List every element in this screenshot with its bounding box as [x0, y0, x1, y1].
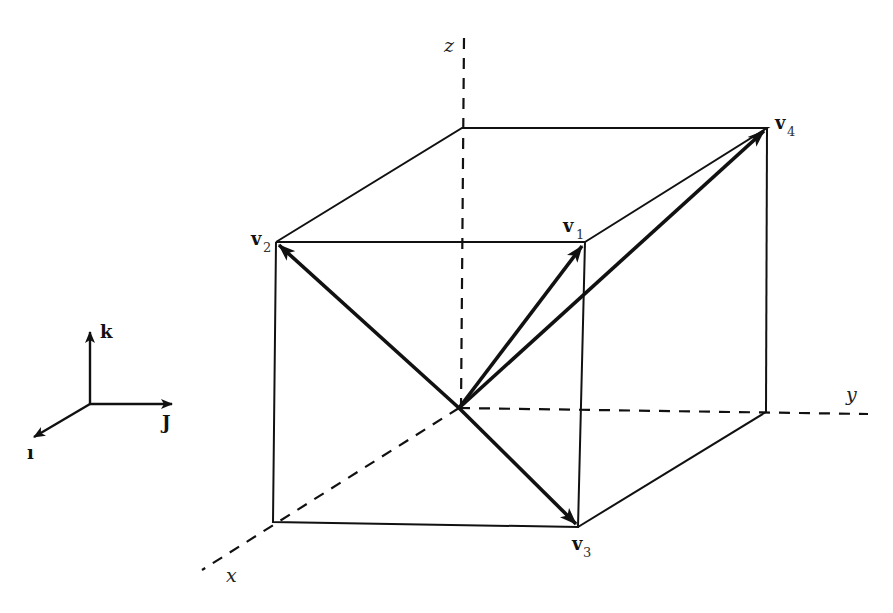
vectors — [279, 131, 764, 524]
vector-v1-arrow — [459, 246, 582, 408]
cube-bottom-right-edge — [578, 412, 766, 527]
y-axis — [459, 408, 868, 414]
vector-v2-arrow — [279, 245, 459, 408]
vector-v2-label: v 2 — [250, 228, 271, 255]
cube-top-back-edges — [276, 128, 767, 242]
svg-text:2: 2 — [263, 240, 271, 255]
svg-text:v: v — [250, 228, 262, 249]
x-axis-label: x — [226, 564, 237, 586]
cube-vector-diagram: z y x v 1 v 2 v 3 v 4 k J ı — [0, 0, 893, 613]
y-axis-label: y — [845, 383, 857, 405]
vector-v1-label: v 1 — [562, 215, 584, 242]
basis-triad — [34, 332, 172, 437]
cube-back-right-edge — [766, 128, 767, 412]
axes — [202, 38, 868, 570]
svg-text:4: 4 — [787, 124, 795, 139]
z-axis — [461, 38, 464, 408]
vector-v3-arrow — [459, 408, 576, 524]
svg-text:3: 3 — [583, 545, 591, 560]
z-axis-label: z — [443, 34, 455, 56]
k-basis-label: k — [100, 321, 113, 342]
i-basis-arrow — [34, 404, 90, 437]
vector-v4-arrow — [459, 131, 764, 408]
j-basis-label: J — [160, 412, 171, 433]
i-basis-label: ı — [27, 442, 34, 463]
svg-text:v: v — [562, 215, 574, 236]
svg-text:v: v — [571, 533, 583, 554]
x-axis — [202, 408, 459, 570]
svg-text:1: 1 — [576, 227, 584, 242]
svg-text:v: v — [774, 112, 786, 133]
vector-v4-label: v 4 — [774, 112, 795, 139]
vector-v3-label: v 3 — [571, 533, 591, 560]
